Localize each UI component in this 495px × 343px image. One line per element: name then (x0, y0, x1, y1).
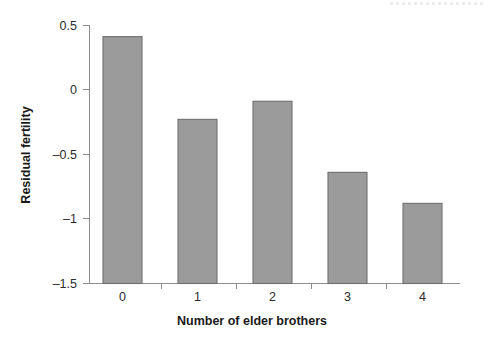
y-tick-label-4: –1.5 (53, 277, 77, 291)
bar-category-4[interactable] (403, 203, 442, 283)
x-tick-label-1: 1 (194, 290, 201, 304)
x-axis-ticks (162, 284, 387, 290)
figure-container: Residual fertility Number of elder broth… (0, 0, 495, 343)
x-axis-title: Number of elder brothers (177, 314, 327, 328)
x-axis-tick-labels: 0 1 2 3 4 (119, 290, 426, 304)
bar-category-3[interactable] (328, 172, 367, 283)
y-tick-label-0: 0.5 (60, 19, 77, 33)
bar-chart: Residual fertility Number of elder broth… (0, 0, 495, 343)
y-tick-label-1: 0 (70, 83, 77, 97)
y-tick-label-2: –0.5 (53, 148, 77, 162)
bar-category-1[interactable] (178, 119, 217, 283)
y-axis-title: Residual fertility (19, 106, 33, 203)
x-tick-label-3: 3 (344, 290, 351, 304)
bar-category-0[interactable] (103, 37, 142, 284)
x-tick-label-0: 0 (119, 290, 126, 304)
x-tick-label-2: 2 (269, 290, 276, 304)
y-axis-ticks (83, 26, 90, 284)
y-axis-tick-labels: 0.5 0 –0.5 –1 –1.5 (53, 19, 77, 291)
bar-category-2[interactable] (253, 101, 292, 283)
bars-group (103, 37, 442, 284)
x-tick-label-4: 4 (419, 290, 426, 304)
y-tick-label-3: –1 (63, 212, 77, 226)
